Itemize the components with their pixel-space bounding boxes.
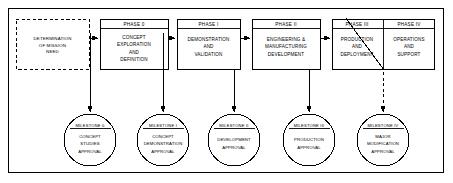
milestone-node-milestone-4: MILESTONE IV MAJOR MODIFICATION APPROVAL (357, 114, 409, 166)
milestone-2-line-1: DEVELOPMENT (217, 137, 251, 142)
phase-2-title: PHASE II (275, 22, 296, 27)
phase-3-line-2: AND (352, 44, 363, 49)
phase-2-line-3: DEVELOPMENT (268, 52, 304, 57)
phase-0-line-4: DEFINITION (120, 57, 148, 62)
phase-3-line-1: PRODUCTION (341, 37, 373, 42)
milestone-2-line-2: APPROVAL (222, 145, 246, 150)
phase-1-line-3: VALIDATION (194, 52, 222, 57)
phase-box-phase-3-and-4: PHASE III PRODUCTION AND DEPLOYMENT PHAS… (332, 19, 434, 70)
milestone-4-line-2: MODIFICATION (367, 141, 399, 146)
diagram-canvas: DETERMINATION OF MISSION NEED PHASE 0 CO… (0, 0, 453, 183)
milestone-0-title: MILESTONE 0 (75, 123, 105, 128)
phase-1-title: PHASE I (199, 22, 219, 27)
phase-4-title: PHASE IV (397, 22, 421, 27)
phase-2-line-2: MANUFACTURING (265, 44, 307, 49)
milestone-1-line-3: APPROVAL (151, 149, 175, 154)
milestone-4-line-1: MAJOR (375, 134, 391, 139)
milestone-3-line-2: APPROVAL (297, 145, 321, 150)
acquisition-lifecycle-diagram: DETERMINATION OF MISSION NEED PHASE 0 CO… (0, 0, 453, 183)
milestone-3-title: MILESTONE III (294, 123, 325, 128)
milestone-2-title: MILESTONE II (219, 123, 248, 128)
phase-0-line-1: CONCEPT (122, 35, 146, 40)
phase-4-line-1: OPERATIONS (393, 37, 424, 42)
milestone-node-milestone-0: MILESTONE 0 CONCEPT STUDIES APPROVAL (64, 114, 116, 166)
milestone-0-line-2: STUDIES (80, 141, 99, 146)
phase-box-phase-0: PHASE 0 CONCEPT EXPLORATION AND DEFINITI… (100, 19, 168, 69)
phase-0-line-3: AND (129, 50, 140, 55)
milestone-node-milestone-1: MILESTONE I CONCEPT DEMONSTRATION APPROV… (137, 114, 189, 166)
phase-box-phase-1: PHASE I DEMONSTRATION AND VALIDATION (177, 19, 240, 69)
milestone-node-milestone-2: MILESTONE II DEVELOPMENT APPROVAL (208, 114, 260, 166)
phase-4-line-2: AND (404, 44, 415, 49)
start-node-determination-of-mission-need: DETERMINATION OF MISSION NEED (16, 19, 89, 69)
phase-0-line-2: EXPLORATION (117, 42, 151, 47)
milestone-1-line-1: CONCEPT (152, 134, 174, 139)
start-node-line-3: NEED (46, 49, 59, 54)
phase-box-phase-2: PHASE II ENGINEERING & MANUFACTURING DEV… (252, 19, 320, 69)
milestone-4-title: MILESTONE IV (368, 123, 399, 128)
milestone-1-line-2: DEMONSTRATION (144, 141, 183, 146)
phase-0-title: PHASE 0 (123, 22, 144, 27)
start-node-line-2: OF MISSION (39, 43, 66, 48)
milestone-node-milestone-3: MILESTONE III PRODUCTION APPROVAL (283, 114, 335, 166)
milestone-4-line-3: APPROVAL (371, 149, 395, 154)
milestone-3-line-1: PRODUCTION (294, 137, 324, 142)
phase-1-line-1: DEMONSTRATION (188, 37, 230, 42)
phase-4-line-3: SUPPORT (397, 52, 420, 57)
milestone-0-line-1: CONCEPT (79, 134, 101, 139)
phase-3-line-3: DEPLOYMENT (340, 52, 373, 57)
phase-2-line-1: ENGINEERING & (267, 37, 305, 42)
start-node-line-1: DETERMINATION (34, 36, 72, 41)
milestone-1-title: MILESTONE I (149, 123, 177, 128)
phase-1-line-2: AND (203, 44, 214, 49)
milestone-0-line-3: APPROVAL (78, 149, 102, 154)
